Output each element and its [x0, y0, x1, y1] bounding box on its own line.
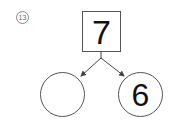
part-circle-given: 6 — [118, 72, 163, 117]
part-circle-empty[interactable] — [40, 72, 85, 117]
